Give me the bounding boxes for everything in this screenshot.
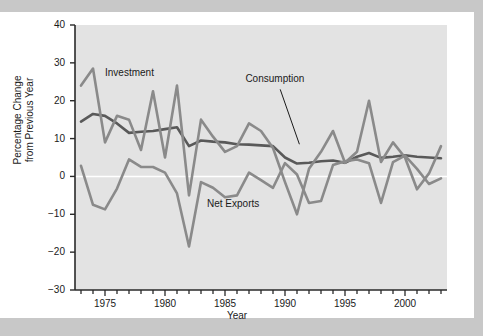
x-axis-tick-label: 2000 (385, 298, 425, 309)
y-axis-tick-label: 20 (39, 95, 65, 106)
x-axis-tick-label: 1980 (145, 298, 185, 309)
series-label-investment: Investment (105, 67, 154, 78)
y-axis-tick-label: 10 (39, 133, 65, 144)
series-label-net-exports: Net Exports (207, 198, 259, 209)
chart-figure: Percentage Change from Previous Year Yea… (0, 12, 474, 318)
x-axis-tick-label: 1985 (205, 298, 245, 309)
y-axis-tick-label: −10 (39, 208, 65, 219)
series-label-consumption: Consumption (245, 73, 304, 84)
x-axis-tick-label: 1975 (85, 298, 125, 309)
y-axis-tick-label: 40 (39, 19, 65, 30)
y-axis-tick-label: −20 (39, 246, 65, 257)
page-right-band (474, 0, 483, 336)
y-axis-tick-label: 0 (39, 170, 65, 181)
page-top-band (0, 0, 483, 12)
x-axis-tick-label: 1995 (325, 298, 365, 309)
y-axis-tick-label: −30 (39, 284, 65, 295)
chart-plot-area (0, 12, 474, 318)
screenshot-root: Percentage Change from Previous Year Yea… (0, 0, 483, 336)
y-axis-tick-label: 30 (39, 57, 65, 68)
x-axis-tick-label: 1990 (265, 298, 305, 309)
